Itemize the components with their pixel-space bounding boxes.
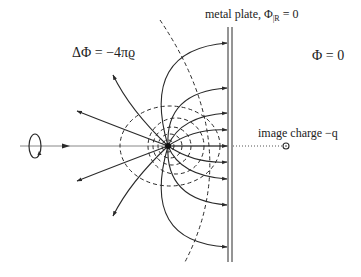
symmetry-axis [20,144,283,149]
point-charge [165,143,171,149]
plate-label-main: metal plate, Φ [205,7,273,21]
image-charge-marker [283,143,289,149]
axis-arrow-icon [62,144,70,149]
poisson-equation-label: ΔΦ = −4πϱ [72,45,135,61]
metal-plate [228,27,232,262]
image-charge-label: image charge −q [258,126,338,141]
metal-plate-label: metal plate, Φ|R = 0 [205,7,298,23]
plate-label-eq: = 0 [280,7,299,21]
plate-label-sub: |R [273,14,280,23]
right-region-potential-label: Φ = 0 [312,48,344,64]
field-lines [77,43,227,247]
